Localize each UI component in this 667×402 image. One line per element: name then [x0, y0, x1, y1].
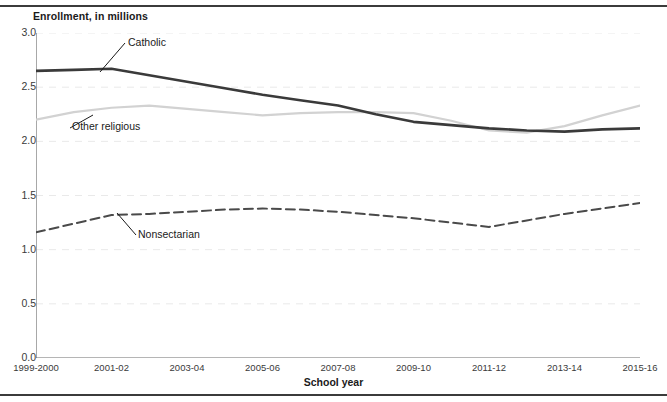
x-axis-tick-label: 2011-12	[472, 362, 506, 373]
top-divider	[0, 5, 667, 7]
line-chart-svg	[36, 33, 640, 358]
series-label-other-religious: Other religious	[72, 120, 140, 132]
y-axis-title: Enrollment, in millions	[33, 10, 148, 22]
x-axis-tick-label: 2009-10	[396, 362, 431, 373]
series-label-nonsectarian: Nonsectarian	[138, 228, 200, 240]
x-axis-tick-label: 2007-08	[321, 362, 356, 373]
annotation-leader-line	[117, 213, 136, 235]
bottom-divider	[0, 394, 667, 396]
x-axis-tick-label: 2005-06	[245, 362, 280, 373]
y-axis-tick-label: 1.0	[2, 243, 36, 255]
y-axis-tick-label: 0.5	[2, 297, 36, 309]
y-axis-tick-label: 2.5	[2, 80, 36, 92]
series-line-nonsectarian	[36, 203, 640, 232]
series-label-catholic: Catholic	[128, 36, 166, 48]
x-axis-title: School year	[0, 376, 667, 388]
plot-area	[36, 33, 640, 358]
x-axis-tick-label: 2013-14	[547, 362, 582, 373]
x-axis-tick-label: 2003-04	[170, 362, 205, 373]
x-axis-tick-label: 1999-2000	[13, 362, 58, 373]
x-axis-tick-label: 2015-16	[623, 362, 658, 373]
x-axis-tick-label: 2001-02	[94, 362, 129, 373]
y-axis-tick-label: 1.5	[2, 189, 36, 201]
y-axis-tick-label: 2.0	[2, 134, 36, 146]
y-axis-tick-labels: 0.00.51.01.52.02.53.0	[0, 0, 36, 402]
y-axis-tick-label: 3.0	[2, 26, 36, 38]
